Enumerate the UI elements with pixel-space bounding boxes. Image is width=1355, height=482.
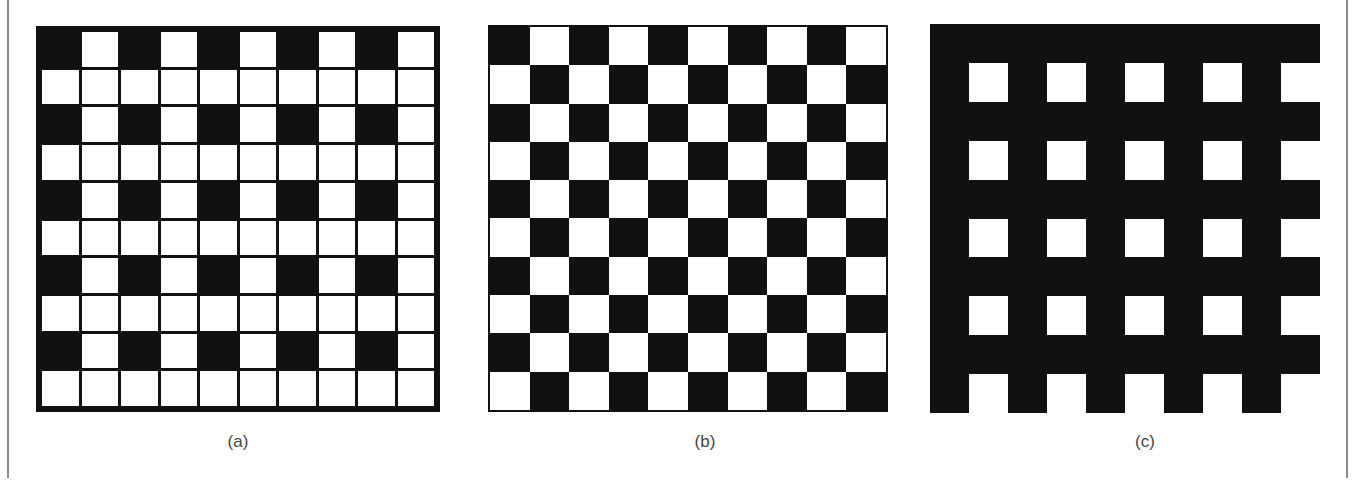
grid-cell [358, 296, 395, 331]
grid-cell [42, 145, 79, 180]
grid-cell [1203, 102, 1242, 141]
grid-cell [1047, 63, 1086, 102]
grid-cell [358, 70, 395, 105]
grid-cell [1008, 335, 1047, 374]
grid-cell [121, 145, 158, 180]
grid-cell [42, 70, 79, 105]
grid-cell [569, 104, 609, 142]
grid-cell [530, 372, 570, 410]
grid-cell [1125, 24, 1164, 63]
grid-cell [1164, 296, 1203, 335]
grid-cell [609, 180, 649, 218]
grid-cell [240, 32, 277, 67]
grid-cell [398, 296, 435, 331]
grid-cell [807, 104, 847, 142]
grid-cell [82, 32, 119, 67]
grid-cell [398, 145, 435, 180]
grid-cell [82, 221, 119, 256]
grid-cell [121, 371, 158, 406]
grid-cell [1125, 102, 1164, 141]
grid-cell [319, 334, 356, 369]
grid-cell [358, 145, 395, 180]
grid-cell [200, 32, 237, 67]
grid-cell [807, 218, 847, 256]
grid-cell [688, 333, 728, 371]
grid-cell [1242, 296, 1281, 335]
grid-cell [807, 295, 847, 333]
grid-cell [358, 371, 395, 406]
grid-cell [569, 180, 609, 218]
grid-cell [1086, 335, 1125, 374]
grid-cell [807, 333, 847, 371]
grid-cell [648, 333, 688, 371]
grid-cell [1242, 102, 1281, 141]
grid-cell [648, 65, 688, 103]
grid-cell [279, 296, 316, 331]
grid-cell [279, 32, 316, 67]
grid-cell [279, 371, 316, 406]
grid-cell [728, 295, 768, 333]
grid-cell [688, 218, 728, 256]
grid-cell [490, 295, 530, 333]
grid-cell [530, 142, 570, 180]
grid-cell [240, 183, 277, 218]
grid-cell [1125, 219, 1164, 258]
grid-cell [688, 257, 728, 295]
grid-cell [161, 70, 198, 105]
grid-cell [490, 104, 530, 142]
grid-cell [688, 27, 728, 65]
grid-cell [688, 372, 728, 410]
grid-cell [82, 145, 119, 180]
grid-cell [319, 296, 356, 331]
grid-cell [161, 371, 198, 406]
grid-cell [161, 296, 198, 331]
grid-cell [807, 65, 847, 103]
grid-cell [42, 221, 79, 256]
grid-cell [969, 219, 1008, 258]
grid-cell [846, 65, 886, 103]
grid-cell [688, 142, 728, 180]
grid-cell [279, 334, 316, 369]
grid-cell [1164, 257, 1203, 296]
grid-cell [1047, 141, 1086, 180]
grid-cell [240, 296, 277, 331]
grid-cell [319, 183, 356, 218]
grid-cell [1242, 374, 1281, 413]
grid-cell [569, 372, 609, 410]
grid-cell [609, 372, 649, 410]
figure-panel-c [930, 24, 1320, 413]
grid-cell [609, 257, 649, 295]
grid-cell [1008, 141, 1047, 180]
grid-cell [609, 104, 649, 142]
grid-cell [161, 107, 198, 142]
grid-cell [82, 107, 119, 142]
grid-cell [200, 70, 237, 105]
grid-cell [1047, 24, 1086, 63]
grid-cell [728, 180, 768, 218]
grid-cell [930, 180, 969, 219]
grid-cell [490, 333, 530, 371]
grid-cell [42, 107, 79, 142]
grid-cell [648, 295, 688, 333]
grid-cell [490, 65, 530, 103]
grid-cell [1125, 141, 1164, 180]
grid-cell [969, 24, 1008, 63]
grid-cell [42, 334, 79, 369]
grid-cell [240, 145, 277, 180]
grid-cell [807, 257, 847, 295]
grid-cell [161, 183, 198, 218]
grid-cell [1281, 102, 1320, 141]
grid-cell [846, 295, 886, 333]
grid-cell [161, 258, 198, 293]
grid-cell [648, 372, 688, 410]
grid-cell [609, 333, 649, 371]
grid-cell [279, 70, 316, 105]
grid-cell [1008, 296, 1047, 335]
grid-cell [82, 371, 119, 406]
grid-cell [319, 145, 356, 180]
grid-cell [728, 372, 768, 410]
grid-cell [930, 141, 969, 180]
grid-cell [846, 333, 886, 371]
grid-cell [398, 107, 435, 142]
grid-cell [767, 27, 807, 65]
